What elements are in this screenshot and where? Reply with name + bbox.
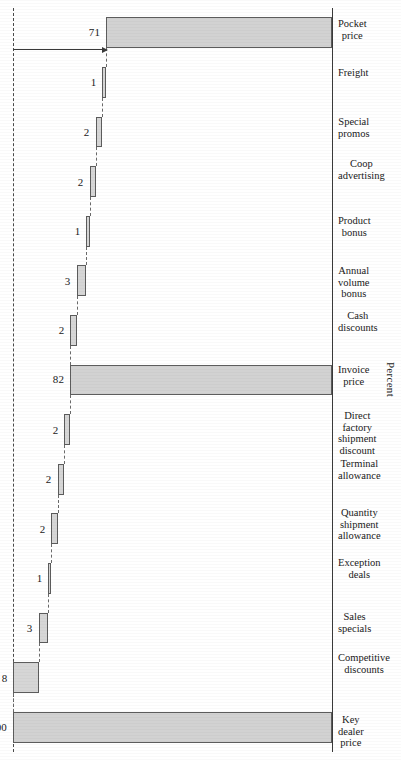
waterfall-connector-2 bbox=[39, 643, 40, 662]
value-label-6: 2 bbox=[46, 474, 52, 485]
waterfall-connector-8 bbox=[70, 346, 71, 365]
bar-5 bbox=[51, 513, 57, 544]
category-label-line: deals bbox=[338, 568, 381, 580]
bar-10 bbox=[77, 265, 87, 296]
value-label-11: 1 bbox=[75, 226, 81, 237]
bar-15 bbox=[106, 17, 332, 48]
bar-6 bbox=[58, 464, 64, 495]
category-label-6: Terminalallowance bbox=[338, 458, 381, 481]
bar-8 bbox=[70, 365, 332, 396]
category-label-line: volume bbox=[338, 276, 370, 288]
category-label-line: bonus bbox=[338, 226, 371, 238]
reference-line-100 bbox=[13, 8, 14, 752]
category-label-10: Annualvolumebonus bbox=[338, 265, 370, 300]
category-label-line: Quantity bbox=[338, 507, 381, 519]
waterfall-connector-7 bbox=[70, 395, 71, 414]
value-label-9: 2 bbox=[59, 325, 65, 336]
waterfall-connector-12 bbox=[96, 147, 97, 166]
bar-1 bbox=[13, 712, 332, 743]
y-axis-title: Percent bbox=[385, 362, 397, 397]
category-label-line: discounts bbox=[338, 663, 390, 675]
category-label-line: advertising bbox=[338, 170, 385, 182]
value-label-4: 1 bbox=[36, 573, 42, 584]
annotation-arrow-shaft bbox=[13, 49, 106, 50]
category-label-3: Salesspecials bbox=[338, 612, 371, 635]
waterfall-connector-6 bbox=[64, 445, 65, 464]
value-label-2: 8 bbox=[1, 672, 7, 683]
value-label-14: 1 bbox=[90, 77, 96, 88]
category-label-line: price bbox=[338, 376, 370, 388]
category-axis-line bbox=[332, 8, 333, 752]
category-label-line: Direct bbox=[338, 410, 377, 422]
waterfall-connector-9 bbox=[77, 296, 78, 315]
category-label-7: Directfactoryshipmentdiscount bbox=[338, 410, 377, 456]
category-label-14: Freight bbox=[338, 67, 368, 79]
value-label-10: 3 bbox=[65, 275, 71, 286]
bar-11 bbox=[86, 216, 89, 247]
rotated-chart-canvas: 1008312228223122171 KeydealerpriceCompet… bbox=[0, 0, 401, 760]
category-label-13: Specialpromos bbox=[338, 116, 370, 139]
category-label-11: Productbonus bbox=[338, 215, 371, 238]
chart-page: 1008312228223122171 KeydealerpriceCompet… bbox=[0, 0, 401, 760]
category-label-line: promos bbox=[338, 128, 370, 140]
value-label-7: 2 bbox=[52, 424, 58, 435]
waterfall-connector-11 bbox=[90, 197, 91, 216]
bar-12 bbox=[90, 166, 96, 197]
category-label-line: Exception bbox=[338, 557, 381, 569]
category-label-line: Sales bbox=[338, 612, 371, 624]
category-label-2: Competitivediscounts bbox=[338, 652, 390, 675]
bar-7 bbox=[64, 414, 70, 445]
category-label-line: Special bbox=[338, 116, 370, 128]
category-label-line: shipment bbox=[338, 519, 381, 531]
category-label-5: Quantityshipmentallowance bbox=[338, 507, 381, 542]
category-label-line: shipment bbox=[338, 433, 377, 445]
annotation-arrow-head bbox=[102, 47, 108, 53]
category-label-line: bonus bbox=[338, 288, 370, 300]
waterfall-connector-5 bbox=[58, 495, 59, 514]
category-label-line: Freight bbox=[338, 67, 368, 79]
category-label-line: Competitive bbox=[338, 652, 390, 664]
value-label-15: 71 bbox=[88, 27, 99, 38]
category-label-line: dealer bbox=[338, 726, 364, 738]
bar-9 bbox=[70, 315, 76, 346]
waterfall-connector-13 bbox=[102, 98, 103, 117]
category-label-line: allowance bbox=[338, 530, 381, 542]
category-label-line: Cash bbox=[338, 310, 378, 322]
category-label-4: Exceptiondeals bbox=[338, 557, 381, 580]
category-label-line: Annual bbox=[338, 265, 370, 277]
category-label-line: Pocket bbox=[338, 18, 367, 30]
value-label-3: 3 bbox=[27, 623, 33, 634]
category-label-9: Cashdiscounts bbox=[338, 310, 378, 333]
category-label-1: Keydealerprice bbox=[338, 714, 364, 749]
bar-3 bbox=[39, 613, 49, 644]
category-label-line: factory bbox=[338, 422, 377, 434]
category-label-line: discount bbox=[338, 445, 377, 457]
value-label-12: 2 bbox=[78, 176, 84, 187]
bar-4 bbox=[48, 563, 51, 594]
category-label-line: discounts bbox=[338, 322, 378, 334]
category-label-line: specials bbox=[338, 623, 371, 635]
waterfall-connector-3 bbox=[48, 594, 49, 613]
waterfall-connector-10 bbox=[86, 247, 87, 266]
waterfall-connector-1 bbox=[13, 693, 14, 712]
waterfall-plot: 1008312228223122171 KeydealerpriceCompet… bbox=[0, 0, 401, 760]
category-label-line: Terminal bbox=[338, 458, 381, 470]
value-label-1: 100 bbox=[0, 722, 7, 733]
bar-2 bbox=[13, 662, 39, 693]
category-label-line: allowance bbox=[338, 469, 381, 481]
category-label-line: Product bbox=[338, 215, 371, 227]
category-label-12: Coopadvertising bbox=[338, 158, 385, 181]
category-label-15: Pocketprice bbox=[338, 18, 367, 41]
category-label-8: Invoiceprice bbox=[338, 364, 370, 387]
category-label-line: Key bbox=[338, 714, 364, 726]
category-label-line: price bbox=[338, 737, 364, 749]
category-label-line: Invoice bbox=[338, 364, 370, 376]
value-label-5: 2 bbox=[39, 523, 45, 534]
bar-13 bbox=[96, 117, 102, 148]
value-label-8: 82 bbox=[53, 374, 64, 385]
category-label-line: Coop bbox=[338, 158, 385, 170]
category-label-line: price bbox=[338, 30, 367, 42]
bar-14 bbox=[102, 67, 105, 98]
value-label-13: 2 bbox=[84, 127, 90, 138]
waterfall-connector-4 bbox=[51, 544, 52, 563]
